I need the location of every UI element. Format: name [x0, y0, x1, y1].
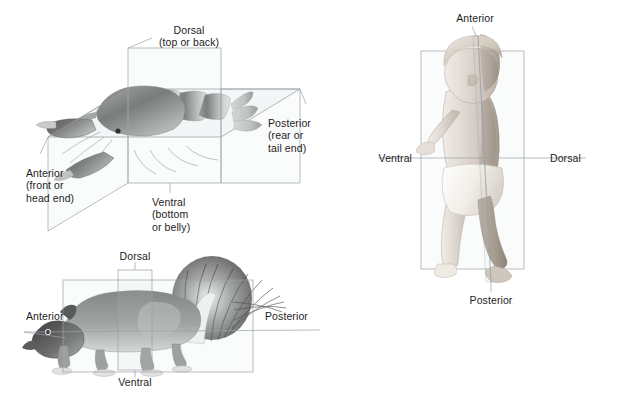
lobster-panel: Dorsal (top or back) Posterior (rear or … — [0, 0, 360, 260]
squirrel-label-posterior: Posterior — [265, 310, 308, 322]
squirrel-diagram — [0, 250, 360, 396]
human-label-anterior: Anterior — [440, 12, 510, 24]
lobster-transverse-plane — [48, 89, 128, 231]
squirrel-sagittal-plane — [63, 280, 253, 372]
squirrel-panel: Anterior Posterior Dorsal Ventral — [0, 250, 360, 396]
lobster-label-anterior: Anterior (front or head end) — [26, 167, 116, 204]
human-label-posterior: Posterior — [456, 294, 526, 306]
squirrel-label-dorsal: Dorsal — [110, 250, 160, 262]
human-anterior-leader — [472, 26, 476, 36]
lobster-label-posterior: Posterior (rear or tail end) — [268, 117, 358, 154]
human-label-ventral: Ventral — [360, 152, 412, 164]
lobster-anterior-leader — [40, 137, 48, 154]
lobster-label-ventral: Ventral (bottom or belly) — [152, 196, 242, 233]
infant-diaper — [442, 164, 504, 216]
lobster-label-dorsal: Dorsal (top or back) — [134, 24, 244, 49]
lobster-sagittal-plane — [128, 48, 221, 183]
human-panel: Anterior Ventral Dorsal Posterior — [360, 0, 617, 320]
squirrel-label-ventral: Ventral — [110, 376, 160, 388]
lobster-posterior-leader — [300, 89, 306, 104]
squirrel-transverse-plane — [118, 270, 152, 370]
human-label-dorsal: Dorsal — [550, 152, 610, 164]
squirrel-label-anterior: Anterior — [26, 310, 64, 322]
